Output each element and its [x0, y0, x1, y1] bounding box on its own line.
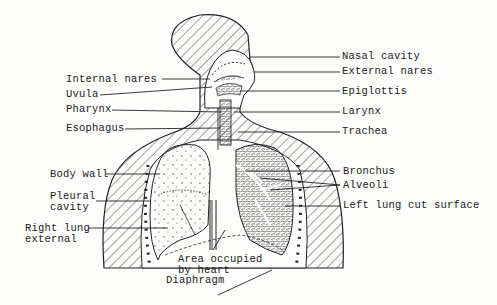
- respiratory-system-diagram: Internal nares Uvula Pharynx Esophagus B…: [0, 0, 497, 305]
- label-esophagus: Esophagus: [66, 123, 125, 134]
- label-external-nares: External nares: [342, 66, 433, 77]
- label-alveoli: Alveoli: [343, 180, 389, 191]
- label-larynx: Larynx: [342, 106, 381, 117]
- label-right-lung-line2: external: [25, 234, 77, 245]
- label-nasal-cavity: Nasal cavity: [342, 51, 420, 62]
- label-pleural-cavity-line2: cavity: [50, 202, 89, 213]
- label-left-lung-cut-surface: Left lung cut surface: [343, 200, 480, 211]
- label-epiglottis: Epiglottis: [342, 86, 407, 97]
- label-trachea: Trachea: [342, 126, 388, 137]
- label-body-wall: Body wall: [50, 169, 109, 180]
- label-pharynx: Pharynx: [66, 104, 112, 115]
- label-internal-nares: Internal nares: [66, 74, 157, 85]
- label-uvula: Uvula: [66, 89, 99, 100]
- label-diaphragm: Diaphragm: [166, 275, 225, 286]
- label-bronchus: Bronchus: [343, 166, 395, 177]
